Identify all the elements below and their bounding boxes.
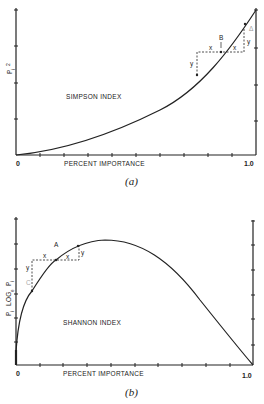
x-tick-1-a: 1.0 — [244, 160, 254, 167]
svg-text:e: e — [10, 289, 15, 292]
annotation-y-right-b: y — [81, 249, 85, 257]
annotation-x-right: x — [233, 44, 237, 51]
y-axis-label-b: P i LOG e P i — [5, 281, 15, 316]
annotation-x-left: x — [209, 44, 213, 51]
annotation-c: C — [26, 279, 31, 286]
shannon-index-label: SHANNON INDEX — [63, 319, 121, 326]
shannon-construction-lines — [32, 246, 79, 291]
simpson-index-label: SIMPSON INDEX — [66, 93, 122, 100]
annotation-y-right: y — [247, 38, 251, 46]
svg-text:2: 2 — [5, 63, 11, 66]
svg-text:i: i — [10, 281, 15, 282]
caption-b: (b) — [125, 386, 138, 399]
y-axis-label-a: P i 2 — [5, 63, 16, 74]
annotation-x-right-b: x — [66, 253, 70, 260]
point-right — [244, 23, 246, 25]
svg-text:i: i — [10, 311, 15, 312]
point-a — [55, 259, 57, 261]
panel-a-chart: B x x y y Δ SIMPSON INDEX PERCENT IMPORT… — [5, 8, 258, 188]
x-axis-label-b: PERCENT IMPORTANCE — [63, 370, 144, 377]
x-tick-0-b: 0 — [16, 370, 20, 377]
point-b — [220, 51, 222, 53]
panel-b-chart: A C x x y y SHANNON INDEX PERCENT IMPORT… — [5, 217, 255, 399]
svg-text:i: i — [11, 69, 16, 70]
simpson-curve — [16, 10, 256, 155]
caption-a: (a) — [125, 175, 138, 188]
annotation-y-left: y — [190, 60, 194, 68]
annotation-y-left-b: y — [26, 264, 30, 272]
shannon-curve — [16, 240, 253, 365]
annotation-a: A — [54, 241, 59, 248]
svg-text:LOG: LOG — [5, 291, 12, 306]
annotation-b: B — [219, 34, 224, 41]
figure: B x x y y Δ SIMPSON INDEX PERCENT IMPORT… — [0, 0, 264, 404]
x-tick-0-a: 0 — [16, 160, 20, 167]
point-right-b — [77, 245, 79, 247]
point-c — [31, 290, 33, 292]
annotation-x-left-b: x — [43, 252, 47, 259]
x-axis-label-a: PERCENT IMPORTANCE — [64, 160, 145, 167]
point-left — [196, 74, 198, 76]
x-tick-1-b: 1.0 — [242, 372, 252, 379]
annotation-delta: Δ — [249, 25, 254, 32]
